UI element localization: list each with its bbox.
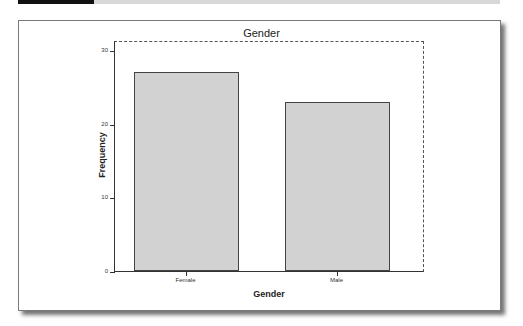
- plot-area: [114, 41, 424, 272]
- chart-title: Gender: [0, 27, 523, 39]
- y-tick-label: 10: [88, 194, 108, 200]
- bar-female: [134, 72, 239, 271]
- x-tick-label: Male: [307, 277, 367, 283]
- y-tick: [110, 198, 115, 199]
- y-tick-label: 20: [88, 121, 108, 127]
- y-tick: [110, 272, 115, 273]
- y-axis-title: Frequency: [97, 115, 107, 195]
- y-tick-label: 30: [88, 47, 108, 53]
- bar-male: [285, 102, 390, 271]
- x-axis-title: Gender: [114, 289, 424, 299]
- x-tick: [337, 272, 338, 276]
- header-bar-dark: [18, 0, 94, 4]
- y-tick: [110, 125, 115, 126]
- x-tick: [186, 272, 187, 276]
- x-tick-label: Female: [156, 277, 216, 283]
- y-tick-label: 0: [88, 268, 108, 274]
- header-bar-light: [94, 0, 500, 4]
- y-tick: [110, 51, 115, 52]
